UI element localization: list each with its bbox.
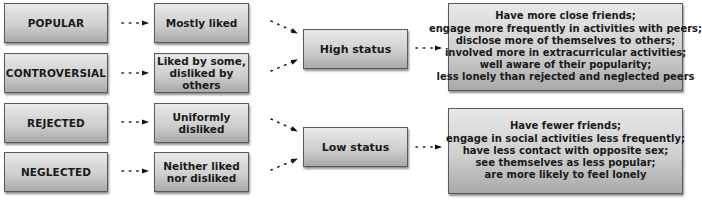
outcomes-low-status: Have fewer friends; engage in social act… (448, 108, 683, 194)
status-label: Low status (322, 141, 389, 154)
liking-line: Neither liked (163, 160, 240, 172)
outcome-list: Have fewer friends; engage in social act… (446, 120, 685, 181)
category-rejected: REJECTED (4, 103, 108, 143)
liking-line: disliked by others (155, 67, 248, 91)
liking-line: Liked by some, (155, 55, 248, 67)
liking-label: Mostly liked (166, 17, 238, 29)
category-controversial: CONTROVERSIAL (4, 53, 108, 93)
liking-label: Liked by some, disliked by others (155, 55, 248, 91)
liking-label: Neither liked nor disliked (163, 160, 240, 184)
liking-line: nor disliked (163, 172, 240, 184)
category-label: CONTROVERSIAL (6, 67, 106, 79)
status-high: High status (303, 29, 408, 69)
outcomes-high-status: Have more close friends; engage more fre… (448, 3, 683, 91)
category-neglected: NEGLECTED (4, 152, 108, 192)
liking-neither: Neither liked nor disliked (154, 152, 249, 192)
arrow-mostly-liked-to-high (271, 21, 297, 33)
category-label: POPULAR (28, 17, 84, 29)
outcome-item: involved more in extracurricular activit… (429, 47, 702, 59)
outcome-item: disclose more of themselves to others; (429, 35, 702, 47)
arrow-uniformly-disliked-to-low (271, 119, 297, 131)
outcome-list: Have more close friends; engage more fre… (429, 10, 702, 83)
outcome-item: engage in social activities less frequen… (446, 133, 685, 145)
outcome-item: Have more close friends; (429, 10, 702, 22)
category-label: NEGLECTED (21, 166, 91, 178)
liking-uniformly-disliked: Uniformly disliked (154, 103, 249, 143)
arrow-neither-to-low (271, 159, 297, 170)
status-low: Low status (303, 127, 408, 167)
arrow-liked-some-to-high (271, 60, 297, 71)
liking-liked-by-some: Liked by some, disliked by others (154, 53, 249, 93)
outcome-item: engage more frequently in activities wit… (429, 23, 702, 35)
outcome-item: are more likely to feel lonely (446, 169, 685, 181)
outcome-item: see themselves as less popular; (446, 157, 685, 169)
category-label: REJECTED (27, 117, 85, 129)
outcome-item: less lonely than rejected and neglected … (429, 71, 702, 83)
liking-mostly-liked: Mostly liked (154, 3, 249, 43)
outcome-item: Have fewer friends; (446, 120, 685, 132)
outcome-item: well aware of their popularity; (429, 59, 702, 71)
outcome-item: have less contact with opposite sex; (446, 145, 685, 157)
status-label: High status (320, 43, 391, 56)
category-popular: POPULAR (4, 3, 108, 43)
liking-label: Uniformly disliked (155, 111, 248, 135)
